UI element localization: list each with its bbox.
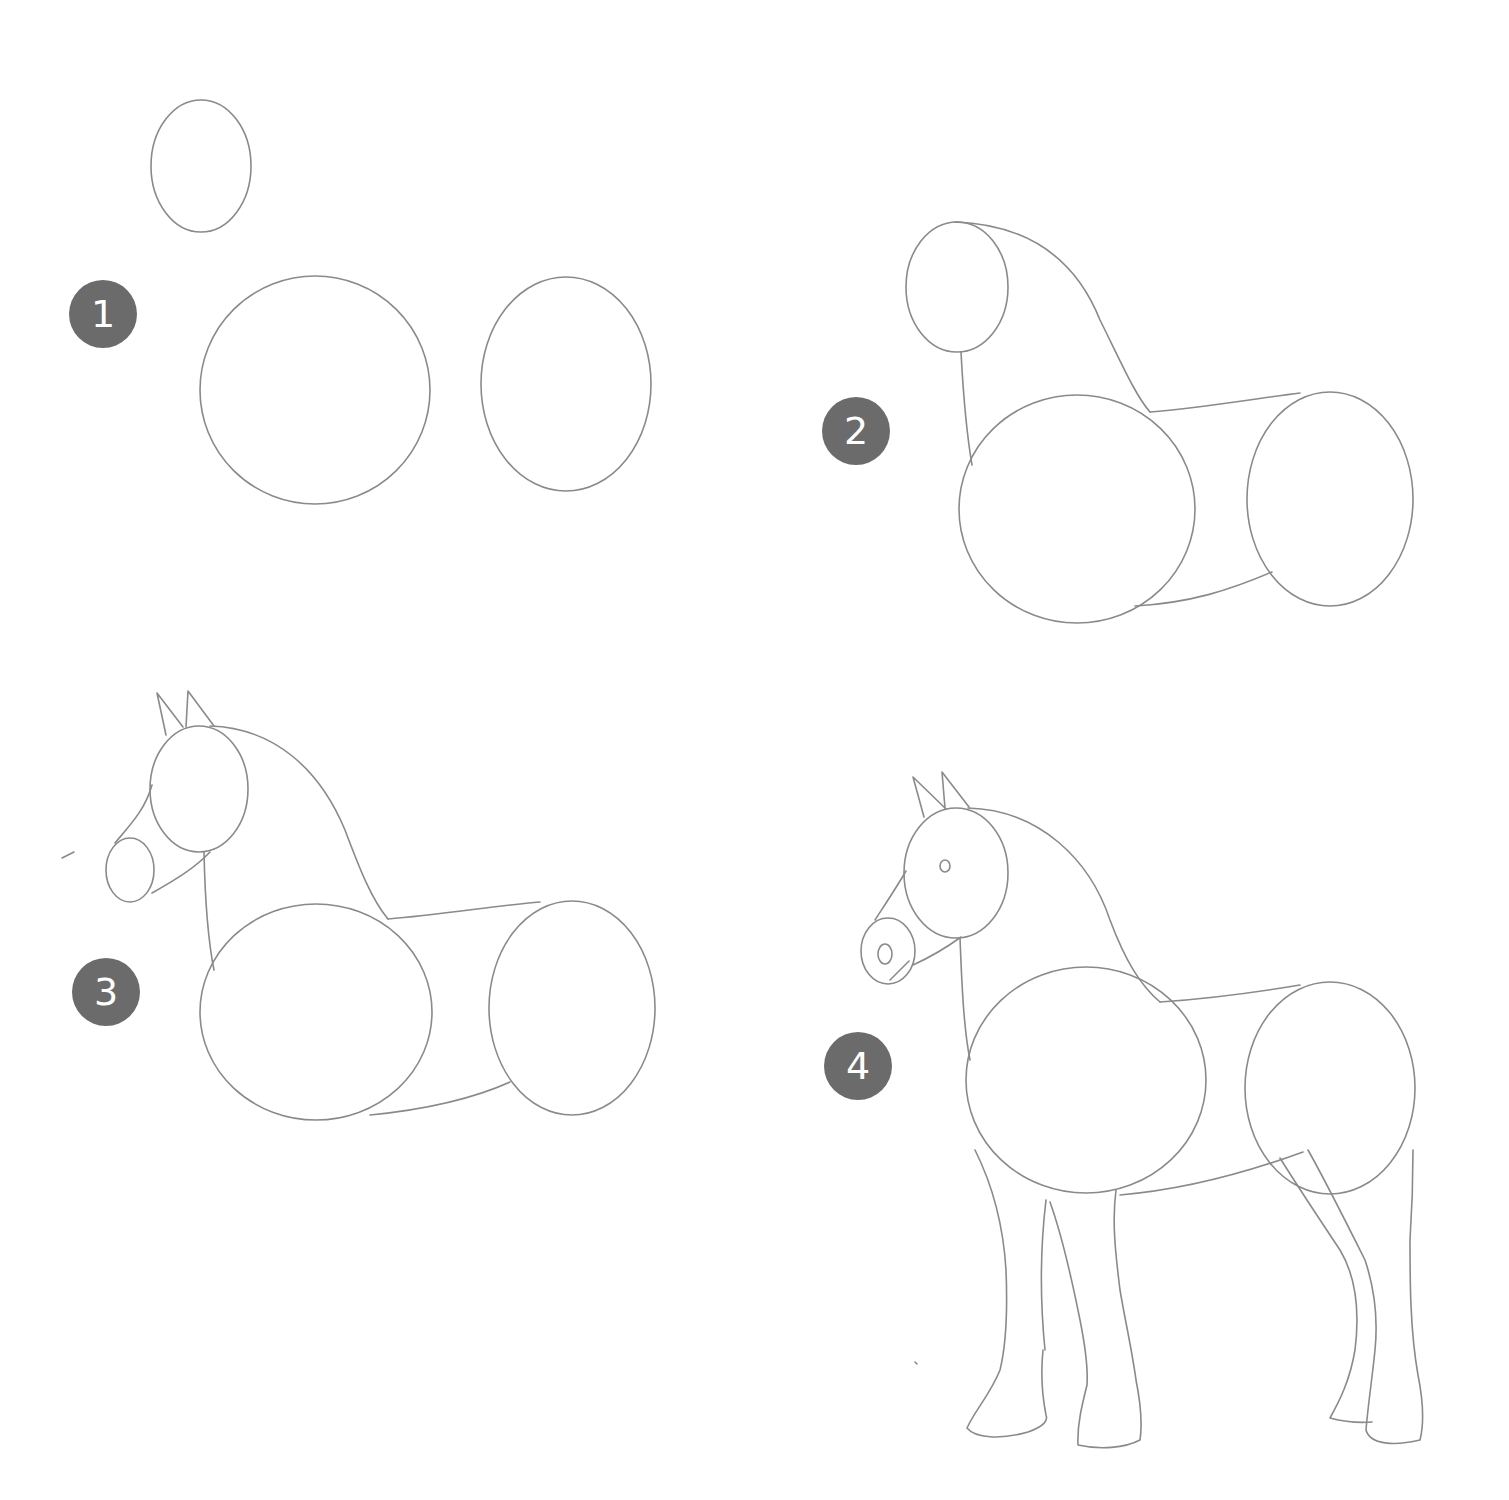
mouth-line bbox=[890, 961, 909, 980]
step-4-sketch bbox=[861, 772, 1423, 1448]
head-oval bbox=[150, 726, 248, 852]
hindquarters-oval bbox=[481, 277, 651, 491]
sketch-illustrations bbox=[0, 0, 1509, 1500]
neck-front-line bbox=[960, 938, 970, 1060]
belly-line bbox=[1135, 572, 1272, 606]
back-line bbox=[388, 902, 540, 919]
eye bbox=[940, 860, 950, 872]
right-ear bbox=[186, 691, 214, 727]
neck-top-line bbox=[210, 726, 388, 919]
drawing-tutorial-page: 1 2 3 4 bbox=[0, 0, 1509, 1500]
hindquarters-oval bbox=[1245, 982, 1415, 1194]
neck-front-line bbox=[204, 852, 214, 970]
muzzle-top-line bbox=[875, 871, 906, 920]
neck-top-line bbox=[968, 808, 1160, 1002]
step-1-sketch bbox=[151, 100, 651, 504]
muzzle-oval bbox=[106, 838, 154, 902]
muzzle-bottom-line bbox=[152, 852, 210, 893]
head-oval bbox=[151, 100, 251, 232]
neck-front-line bbox=[961, 352, 972, 465]
hindquarters-oval bbox=[1247, 392, 1413, 606]
front-leg-near-inner bbox=[1041, 1200, 1046, 1350]
hindquarters-oval bbox=[489, 901, 655, 1115]
left-ear bbox=[157, 693, 183, 735]
head-oval bbox=[904, 808, 1008, 938]
back-line bbox=[1150, 393, 1300, 412]
step-2-sketch bbox=[906, 222, 1413, 623]
hind-leg-far bbox=[1280, 1158, 1372, 1422]
muzzle-bottom-line bbox=[913, 937, 961, 965]
step-3-sketch bbox=[106, 691, 655, 1120]
stray-dot bbox=[915, 1362, 917, 1364]
chest-oval bbox=[200, 904, 432, 1120]
nostril bbox=[878, 944, 892, 964]
head-oval bbox=[906, 222, 1008, 352]
right-ear bbox=[942, 772, 969, 808]
front-leg-near bbox=[967, 1150, 1047, 1437]
stray-mark bbox=[62, 852, 74, 858]
belly-line bbox=[1120, 1152, 1303, 1195]
muzzle-top-line bbox=[115, 785, 152, 843]
chest-circle bbox=[200, 276, 430, 504]
muzzle-oval bbox=[861, 918, 915, 984]
chest-oval bbox=[959, 395, 1195, 623]
back-line bbox=[1160, 985, 1300, 1002]
belly-line bbox=[370, 1082, 510, 1115]
neck-top-line bbox=[955, 222, 1150, 412]
front-leg-far bbox=[1050, 1190, 1141, 1448]
